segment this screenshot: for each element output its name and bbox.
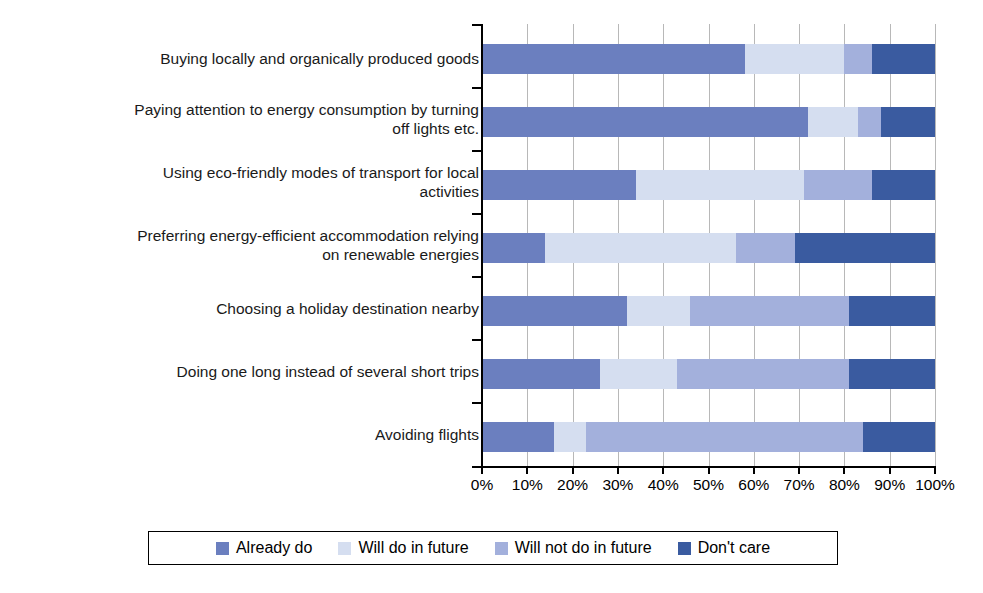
category-label: Preferring energy-efficient accommodatio… [137, 226, 479, 264]
legend-label: Will do in future [358, 539, 468, 557]
gridline-100 [935, 24, 936, 466]
bar-segment [804, 170, 872, 200]
x-tick-label: 50% [686, 476, 732, 494]
x-tick-10 [526, 466, 528, 474]
x-tick-100 [934, 466, 936, 474]
bar-segment [677, 359, 849, 389]
bar-row [482, 359, 935, 389]
stacked-bar-chart: Buying locally and organically produced … [0, 0, 983, 500]
bar-row [482, 170, 935, 200]
y-axis-line [481, 24, 483, 466]
bar-segment [690, 296, 849, 326]
x-tick-label: 100% [912, 476, 958, 494]
legend-item[interactable]: Don't care [678, 539, 770, 557]
legend-item[interactable]: Will not do in future [495, 539, 652, 557]
x-tick-label: 20% [550, 476, 596, 494]
bar-segment [482, 44, 745, 74]
bar-segment [872, 170, 935, 200]
legend-label: Already do [236, 539, 313, 557]
bar-segment [586, 422, 862, 452]
bar-row [482, 44, 935, 74]
x-tick-40 [662, 466, 664, 474]
category-label: Doing one long instead of several short … [177, 362, 479, 381]
bar-segment [482, 107, 808, 137]
x-tick-80 [843, 466, 845, 474]
x-tick-0 [481, 466, 483, 474]
legend-swatch-icon [338, 542, 351, 555]
category-label: Using eco-friendly modes of transport fo… [163, 163, 479, 201]
bar-segment [745, 44, 845, 74]
x-tick-label: 30% [595, 476, 641, 494]
x-tick-label: 90% [867, 476, 913, 494]
bar-row [482, 107, 935, 137]
legend-swatch-icon [678, 542, 691, 555]
bar-segment [627, 296, 690, 326]
bar-segment [849, 296, 935, 326]
legend-label: Will not do in future [515, 539, 652, 557]
x-tick-70 [798, 466, 800, 474]
bar-segment [849, 359, 935, 389]
bar-segment [881, 107, 935, 137]
x-tick-label: 10% [504, 476, 550, 494]
x-tick-50 [708, 466, 710, 474]
bar-row [482, 233, 935, 263]
bar-row [482, 422, 935, 452]
bar-segment [863, 422, 935, 452]
x-tick-90 [889, 466, 891, 474]
x-tick-label: 80% [821, 476, 867, 494]
legend-item[interactable]: Already do [216, 539, 313, 557]
bar-segment [545, 233, 735, 263]
bar-segment [795, 233, 935, 263]
category-label: Buying locally and organically produced … [160, 49, 479, 68]
bar-segment [600, 359, 677, 389]
bar-segment [482, 296, 627, 326]
category-label: Choosing a holiday destination nearby [216, 299, 479, 318]
x-tick-label: 0% [459, 476, 505, 494]
bar-segment [736, 233, 795, 263]
legend: Already doWill do in futureWill not do i… [148, 531, 838, 565]
legend-label: Don't care [698, 539, 770, 557]
bar-segment [482, 422, 554, 452]
chart-page: Buying locally and organically produced … [0, 0, 983, 593]
x-tick-20 [572, 466, 574, 474]
legend-item[interactable]: Will do in future [338, 539, 468, 557]
x-tick-30 [617, 466, 619, 474]
bar-segment [482, 233, 545, 263]
legend-swatch-icon [216, 542, 229, 555]
bar-segment [872, 44, 935, 74]
bar-segment [554, 422, 586, 452]
category-label: Avoiding flights [375, 425, 479, 444]
bar-segment [482, 170, 636, 200]
x-tick-label: 70% [776, 476, 822, 494]
bar-segment [808, 107, 858, 137]
bar-segment [858, 107, 881, 137]
bar-row [482, 296, 935, 326]
legend-swatch-icon [495, 542, 508, 555]
x-tick-label: 40% [640, 476, 686, 494]
bar-segment [482, 359, 600, 389]
x-tick-label: 60% [731, 476, 777, 494]
bar-segment [636, 170, 804, 200]
category-label: Paying attention to energy consumption b… [134, 100, 479, 138]
bar-segment [844, 44, 871, 74]
x-tick-60 [753, 466, 755, 474]
